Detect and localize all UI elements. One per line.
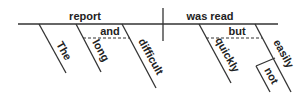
modifier-long: long bbox=[90, 37, 112, 63]
modifier-easily: easily bbox=[271, 37, 297, 70]
modifier-difficult: difficult bbox=[136, 36, 166, 77]
modifier-quickly: quickly bbox=[213, 35, 242, 75]
modifier-the: The bbox=[54, 39, 74, 62]
conjunction-but: but bbox=[228, 25, 245, 37]
verb-word: was read bbox=[185, 10, 233, 22]
sentence-diagram: report was read The long and difficult q… bbox=[0, 0, 308, 93]
subject-word: report bbox=[69, 10, 101, 22]
conjunction-and: and bbox=[100, 25, 120, 37]
